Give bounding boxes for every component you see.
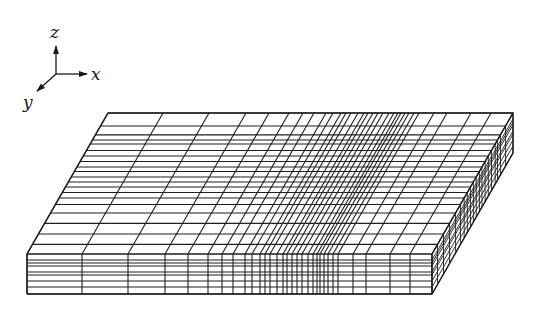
- mesh-line: [82, 113, 163, 254]
- mesh-line: [324, 113, 405, 254]
- front-face-grid: [27, 254, 432, 294]
- coordinate-axes-triad: x y z: [22, 22, 101, 112]
- mesh-line: [313, 113, 394, 254]
- z-axis-label: z: [49, 22, 60, 42]
- y-axis-arrow-icon: [37, 74, 56, 91]
- mesh-figure: x y z: [0, 0, 542, 317]
- mesh-line: [297, 113, 378, 254]
- mesh-line: [287, 113, 368, 254]
- mesh-line: [252, 113, 333, 254]
- top-face-grid: [27, 113, 513, 254]
- mesh-line: [270, 113, 351, 254]
- mesh-line: [233, 113, 314, 254]
- x-axis-label: x: [91, 64, 101, 84]
- mesh-line: [308, 113, 389, 254]
- mesh-line: [328, 113, 409, 254]
- mesh-line: [277, 113, 358, 254]
- y-axis-label: y: [22, 92, 33, 112]
- mesh-line: [283, 113, 364, 254]
- slab-mesh: [27, 113, 513, 294]
- mesh-line: [432, 113, 513, 254]
- mesh-line: [128, 113, 209, 254]
